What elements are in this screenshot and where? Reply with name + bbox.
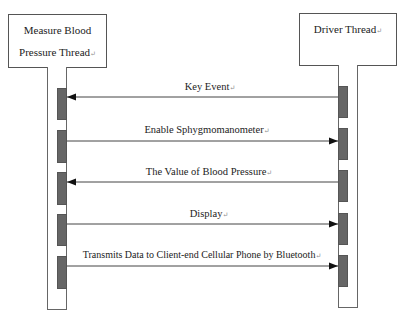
message-label-key-event: Key Event↵ [185, 81, 236, 92]
pilcrow-icon: ↵ [229, 84, 235, 92]
pilcrow-icon: ↵ [222, 211, 228, 219]
pilcrow-icon: ↵ [264, 127, 270, 135]
message-label-transmits-data: Transmits Data to Client-end Cellular Ph… [83, 249, 322, 260]
pilcrow-icon: ↵ [315, 252, 321, 260]
message-label-value-blood-pressure: The Value of Blood Pressure↵ [146, 166, 272, 177]
message-arrows [0, 0, 404, 316]
message-label-enable-sphygmomanometer: Enable Sphygmomanometer↵ [144, 124, 269, 135]
message-label-display: Display↵ [190, 208, 229, 219]
pilcrow-icon: ↵ [266, 169, 272, 177]
